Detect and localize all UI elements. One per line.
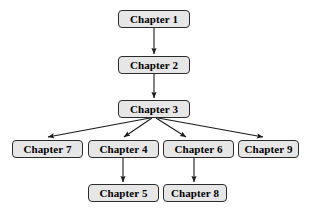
node-label-ch9: Chapter 9	[244, 143, 292, 154]
edge-ch3-to-ch9	[158, 118, 263, 137]
node-label-ch6: Chapter 6	[174, 143, 222, 154]
node-ch9[interactable]: Chapter 9	[238, 140, 299, 158]
node-ch5[interactable]: Chapter 5	[88, 184, 159, 202]
node-label-ch8: Chapter 8	[171, 187, 219, 198]
node-label-ch4: Chapter 4	[99, 143, 147, 154]
node-ch2[interactable]: Chapter 2	[118, 56, 190, 74]
node-ch7[interactable]: Chapter 7	[12, 140, 83, 158]
edge-ch3-to-ch4	[124, 118, 152, 137]
node-label-ch1: Chapter 1	[130, 13, 178, 24]
node-ch8[interactable]: Chapter 8	[163, 184, 227, 202]
chapter-dependency-diagram: Chapter 1Chapter 2Chapter 3Chapter 7Chap…	[0, 0, 310, 215]
node-ch6[interactable]: Chapter 6	[163, 140, 234, 158]
node-label-ch7: Chapter 7	[23, 143, 71, 154]
node-label-ch3: Chapter 3	[130, 103, 178, 114]
node-ch3[interactable]: Chapter 3	[118, 100, 190, 118]
node-ch4[interactable]: Chapter 4	[88, 140, 159, 158]
edge-ch3-to-ch6	[156, 118, 186, 137]
node-ch1[interactable]: Chapter 1	[118, 10, 190, 28]
edge-ch3-to-ch7	[48, 118, 150, 137]
node-label-ch2: Chapter 2	[130, 59, 178, 70]
node-label-ch5: Chapter 5	[99, 187, 147, 198]
